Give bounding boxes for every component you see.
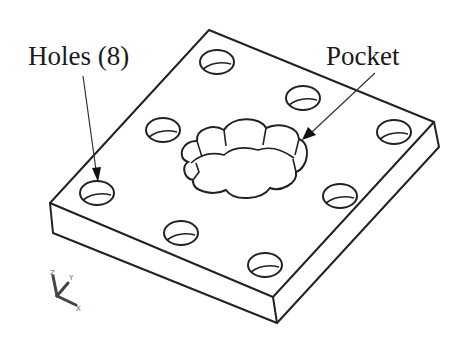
svg-text:Y: Y: [68, 274, 74, 282]
hole: [164, 221, 198, 245]
hole: [146, 118, 180, 142]
holes-callout-label: Holes (8): [28, 43, 129, 70]
coordinate-triad-icon: Z Y X: [50, 269, 81, 313]
hole: [377, 120, 411, 144]
hole: [80, 181, 114, 205]
pocket-callout-label: Pocket: [326, 43, 400, 70]
pocket: [182, 119, 307, 198]
svg-text:X: X: [76, 305, 81, 313]
hole: [286, 86, 320, 110]
svg-text:Z: Z: [50, 269, 55, 277]
hole: [200, 50, 234, 74]
diagram-canvas: Z Y X Holes (8) Pocket: [0, 0, 467, 339]
hole: [248, 253, 282, 277]
pocket-outline: [182, 119, 307, 198]
hole: [323, 184, 357, 208]
